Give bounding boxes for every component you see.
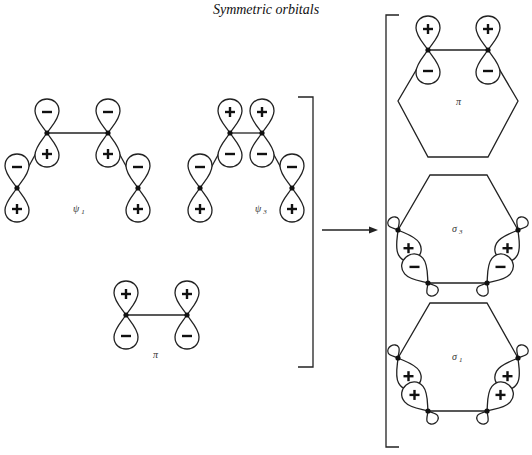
p-orbital-upper-lobe: [416, 16, 440, 50]
p-orbital-lower-lobe: [218, 133, 242, 167]
p-orbital-upper-lobe: [96, 99, 120, 133]
p-orbital-lower-lobe: [416, 50, 440, 84]
p-orbital-upper-lobe: [35, 99, 59, 133]
sigma3-orbital: σ3: [386, 175, 530, 298]
sigma1-orbital-label: σ1: [452, 351, 462, 364]
pi-label-left: π: [153, 349, 159, 360]
atom-dot: [105, 130, 110, 135]
left-orbitals-group: ψ1ψ3π: [5, 99, 304, 360]
p-orbital-lower-lobe: [250, 133, 274, 167]
atom-dot: [515, 227, 520, 232]
atom-dot: [395, 227, 400, 232]
atom-dot: [485, 47, 490, 52]
atom-dot: [44, 130, 49, 135]
orbital-diagram: ψ1ψ3π πσ3σ1: [0, 0, 532, 455]
atom-dot: [425, 280, 430, 285]
p-orbital-upper-lobe: [114, 281, 138, 315]
atom-dot: [184, 312, 189, 317]
sigma1-orbital: σ1: [386, 303, 530, 426]
p-orbital-upper-lobe: [5, 154, 29, 188]
atom-dot: [484, 408, 489, 413]
p-orbital-upper-lobe: [126, 154, 150, 188]
pi-orbital-left: π: [114, 281, 199, 360]
psi3-orbital: ψ3: [188, 99, 304, 222]
p-orbital-lower-lobe: [188, 188, 212, 222]
psi3-label: ψ3: [255, 203, 267, 216]
p-orbital-lower-lobe: [175, 315, 199, 349]
p-orbital-lower-lobe: [5, 188, 29, 222]
atom-dot: [425, 408, 430, 413]
atom-dot: [395, 355, 400, 360]
p-orbital-upper-lobe: [476, 16, 500, 50]
small-lobe: [386, 343, 403, 361]
small-lobe: [386, 215, 403, 233]
p-orbital-lower-lobe: [476, 50, 500, 84]
right-orbitals-group: πσ3σ1: [386, 16, 530, 426]
left-bracket: [298, 97, 313, 367]
atom-dot: [289, 185, 294, 190]
p-orbital-lower-lobe: [35, 133, 59, 167]
psi1-label: ψ1: [73, 203, 85, 216]
small-lobe: [513, 215, 530, 233]
small-lobe: [513, 343, 530, 361]
atom-dot: [135, 185, 140, 190]
p-orbital-upper-lobe: [250, 99, 274, 133]
pi-orbital-right: π: [398, 16, 518, 157]
p-orbital-upper-lobe: [218, 99, 242, 133]
atom-dot: [515, 355, 520, 360]
p-orbital-lower-lobe: [280, 188, 304, 222]
atom-dot: [484, 280, 489, 285]
p-orbital-lower-lobe: [126, 188, 150, 222]
p-orbital-lower-lobe: [96, 133, 120, 167]
sigma3-orbital-label: σ3: [452, 223, 463, 236]
atom-dot: [425, 47, 430, 52]
atom-dot: [259, 130, 264, 135]
p-orbital-lower-lobe: [114, 315, 138, 349]
arrow-right-icon: [322, 227, 378, 234]
atom-dot: [227, 130, 232, 135]
pi-label-right: π: [456, 96, 462, 107]
p-orbital-upper-lobe: [280, 154, 304, 188]
atom-dot: [14, 185, 19, 190]
p-orbital-upper-lobe: [175, 281, 199, 315]
p-orbital-upper-lobe: [188, 154, 212, 188]
psi1-orbital: ψ1: [5, 99, 150, 222]
atom-dot: [123, 312, 128, 317]
atom-dot: [197, 185, 202, 190]
